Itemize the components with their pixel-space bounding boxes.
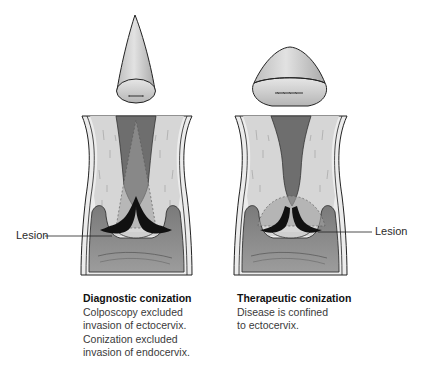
left-lesion-label: Lesion [16,229,48,242]
therapeutic-caption-line: Disease is confined [237,306,351,320]
therapeutic-caption-line: to ectocervix. [237,319,351,333]
conization-illustration [0,0,427,368]
therapeutic-caption-title: Therapeutic conization [237,292,351,306]
right-cervix-section [234,116,347,275]
left-cervix-section [81,116,192,275]
diagnostic-caption-line: Colposcopy excluded [83,306,192,320]
therapeutic-cone-specimen [253,47,327,106]
diagnostic-caption-line: invasion of ectocervix. [83,319,192,333]
diagnostic-cone-specimen [117,15,156,103]
right-lesion-label: Lesion [375,225,407,238]
diagnostic-caption-line: Conization excluded [83,333,192,347]
diagnostic-caption: Diagnostic conization Colposcopy exclude… [83,292,192,360]
therapeutic-caption: Therapeutic conization Disease is confin… [237,292,351,333]
diagnostic-caption-title: Diagnostic conization [83,292,192,306]
diagnostic-caption-line: invasion of endocervix. [83,346,192,360]
